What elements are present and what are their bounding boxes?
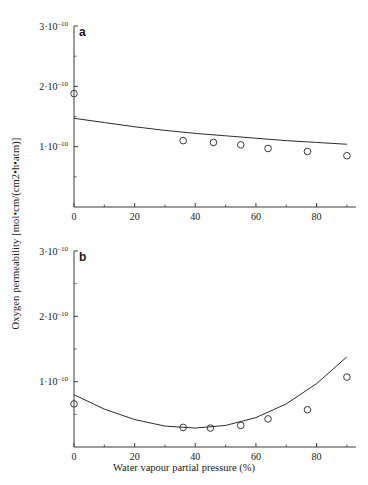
y-tick-exponent-b-0: –10	[57, 375, 69, 383]
data-point-a-6	[344, 152, 351, 159]
y-tick-exponent-a-0: –10	[57, 140, 69, 148]
y-tick-exponent-b-1: –10	[57, 310, 69, 318]
data-point-b-6	[344, 374, 351, 381]
data-point-a-3	[237, 142, 244, 149]
y-tick-label-b-1: 2·10–10	[39, 310, 68, 322]
x-tick-label-a-3: 60	[251, 211, 261, 222]
y-tick-label-b-0: 1·10–10	[39, 375, 68, 387]
x-tick-label-b-4: 80	[312, 451, 322, 462]
y-tick-label-b-2: 3·10–10	[39, 245, 68, 257]
x-tick-label-b-0: 0	[72, 451, 77, 462]
y-tick-label-a-1: 2·10–10	[39, 80, 68, 92]
y-tick-exponent-a-2: –10	[57, 20, 69, 28]
data-point-a-4	[265, 145, 272, 152]
data-point-b-4	[265, 416, 272, 423]
x-tick-label-b-2: 40	[190, 451, 200, 462]
fit-curve-b	[74, 357, 347, 428]
x-tick-label-b-3: 60	[251, 451, 261, 462]
y-tick-exponent-b-2: –10	[57, 245, 69, 253]
data-point-a-1	[180, 137, 187, 144]
x-tick-label-a-1: 20	[130, 211, 140, 222]
x-tick-label-a-2: 40	[190, 211, 200, 222]
data-point-a-5	[304, 148, 311, 155]
panel-label-b: b	[79, 250, 86, 264]
data-point-b-2	[207, 425, 214, 432]
data-point-b-5	[304, 406, 311, 413]
panel-b: 0204060801·10–102·10–103·10–10	[39, 245, 356, 463]
y-tick-exponent-a-1: –10	[57, 80, 69, 88]
plot-svg: 0204060801·10–102·10–103·10–100204060801…	[0, 0, 368, 485]
data-point-a-2	[210, 139, 217, 146]
panel-label-a: a	[79, 25, 86, 39]
figure-container: Oxygen permeability [mol•cm/(cm2•h•atm)]…	[0, 0, 368, 485]
data-point-b-3	[237, 422, 244, 429]
x-tick-label-b-1: 20	[130, 451, 140, 462]
y-tick-label-a-2: 3·10–10	[39, 20, 68, 32]
x-tick-label-a-0: 0	[72, 211, 77, 222]
panel-a: 0204060801·10–102·10–103·10–10	[39, 20, 356, 223]
y-tick-label-a-0: 1·10–10	[39, 140, 68, 152]
x-tick-label-a-4: 80	[312, 211, 322, 222]
